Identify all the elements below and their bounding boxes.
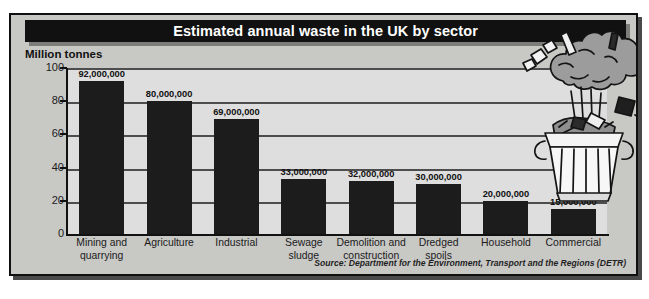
figure-panel: Estimated annual waste in the UK by sect… bbox=[9, 13, 638, 276]
bar-slot: 20,000,000 bbox=[483, 68, 528, 234]
chart-figure-root: Estimated annual waste in the UK by sect… bbox=[0, 0, 649, 299]
bar[interactable] bbox=[483, 201, 528, 234]
bar[interactable] bbox=[416, 184, 461, 234]
x-axis-category-label: Agriculture bbox=[132, 237, 205, 250]
category-label-line: Household bbox=[469, 237, 542, 250]
bar-series: 92,000,00080,000,00069,000,00033,000,000… bbox=[68, 68, 607, 234]
y-axis-tick-mark bbox=[60, 167, 67, 169]
category-label-line: Mining and bbox=[65, 237, 138, 250]
category-label-line: Demolition and bbox=[335, 237, 408, 250]
category-label-line: Sewage bbox=[267, 237, 340, 250]
y-axis-tick-mark bbox=[60, 133, 67, 135]
source-note: Source: Department for the Environment, … bbox=[314, 258, 626, 268]
x-axis-category-label: Mining andquarrying bbox=[65, 237, 138, 262]
bar-value-label: 32,000,000 bbox=[348, 169, 395, 179]
bar-value-label: 33,000,000 bbox=[281, 167, 328, 177]
bar-value-label: 30,000,000 bbox=[415, 172, 462, 182]
y-axis-line bbox=[66, 68, 68, 236]
bar[interactable] bbox=[214, 119, 259, 234]
bar-slot: 69,000,000 bbox=[214, 68, 259, 234]
bar-value-label: 20,000,000 bbox=[483, 189, 530, 199]
x-axis-category-labels: Mining andquarryingAgricultureIndustrial… bbox=[68, 237, 607, 276]
bar-slot: 92,000,000 bbox=[79, 68, 124, 234]
bar[interactable] bbox=[349, 181, 394, 234]
category-label-line: Agriculture bbox=[132, 237, 205, 250]
category-label-line: Commercial bbox=[537, 237, 610, 250]
bar[interactable] bbox=[551, 209, 596, 234]
y-axis-tick-label: 0 bbox=[34, 227, 64, 239]
bar[interactable] bbox=[281, 179, 326, 234]
y-axis-tick-mark bbox=[60, 200, 67, 202]
y-axis-tick-labels: 020406080100 bbox=[19, 15, 64, 255]
category-label-line: Industrial bbox=[200, 237, 273, 250]
category-label-line: quarrying bbox=[65, 250, 138, 263]
chart-title-bar: Estimated annual waste in the UK by sect… bbox=[25, 20, 626, 42]
bar-slot: 30,000,000 bbox=[416, 68, 461, 234]
bar-value-label: 80,000,000 bbox=[146, 89, 193, 99]
x-axis-category-label: Household bbox=[469, 237, 542, 250]
category-label-line: Dredged bbox=[402, 237, 475, 250]
bar-value-label: 15,000,000 bbox=[550, 197, 597, 207]
x-axis-line bbox=[66, 234, 609, 236]
chart-title: Estimated annual waste in the UK by sect… bbox=[25, 20, 626, 42]
bar-value-label: 92,000,000 bbox=[78, 69, 125, 79]
x-axis-category-label: Commercial bbox=[537, 237, 610, 250]
bar-slot: 15,000,000 bbox=[551, 68, 596, 234]
bar[interactable] bbox=[79, 81, 124, 234]
bar-value-label: 69,000,000 bbox=[213, 107, 260, 117]
bar-slot: 33,000,000 bbox=[281, 68, 326, 234]
y-axis-tick-mark bbox=[60, 100, 67, 102]
bar-slot: 80,000,000 bbox=[147, 68, 192, 234]
x-axis-category-label: Industrial bbox=[200, 237, 273, 250]
y-axis-tick-mark bbox=[60, 67, 67, 69]
bar[interactable] bbox=[147, 101, 192, 234]
bar-slot: 32,000,000 bbox=[349, 68, 394, 234]
